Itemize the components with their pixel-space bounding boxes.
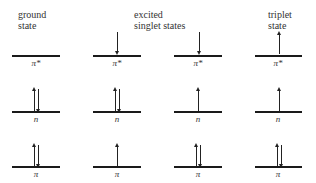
label-pi-star-col1: π* [26,59,46,68]
header-ground: ground state [18,9,46,31]
label-n-col1: n [26,115,46,124]
header-excited-line1: excited [134,9,185,20]
label-pi-star-col3: π* [188,59,208,68]
level-pi-col2 [93,166,141,168]
electron-up-arrow-icon [34,145,35,166]
electron-down-arrow-icon [199,32,200,53]
level-pi-star-col3 [174,55,222,57]
electron-down-arrow-icon [38,89,39,111]
label-pi-col3: π [188,170,208,179]
label-pi-col1: π [26,170,46,179]
electron-down-arrow-icon [200,145,201,166]
electron-up-arrow-icon [34,89,35,111]
level-pi-star-col2 [93,55,141,57]
electron-down-arrow-icon [117,32,118,53]
header-ground-line1: ground [18,9,46,20]
electron-up-arrow-icon [196,145,197,166]
header-triplet: triplet state [268,9,292,31]
header-excited: excited singlet states [134,9,185,31]
orbital-occupancy-diagram: ground state excited singlet states trip… [0,0,316,183]
level-n-col3 [174,111,222,113]
electron-up-arrow-icon [198,89,199,111]
label-n-col2: n [107,115,127,124]
header-excited-line2: singlet states [134,20,185,31]
label-pi-col4: π [268,170,288,179]
level-n-col4 [255,111,302,113]
label-pi-col2: π [107,170,127,179]
label-n-col4: n [268,115,288,124]
electron-up-arrow-icon [117,145,118,166]
electron-up-arrow-icon [115,89,116,111]
electron-up-arrow-icon [279,89,280,111]
level-pi-col3 [174,166,222,168]
level-n-col2 [93,111,141,113]
level-pi-col1 [12,166,60,168]
label-pi-star-col2: π* [107,59,127,68]
level-n-col1 [12,111,60,113]
header-triplet-line2: state [268,20,292,31]
label-n-col3: n [188,115,208,124]
electron-down-arrow-icon [281,145,282,166]
level-pi-star-col4 [255,55,302,57]
level-pi-col4 [255,166,302,168]
electron-down-arrow-icon [119,89,120,111]
electron-up-arrow-icon [279,33,280,54]
header-triplet-line1: triplet [268,9,292,20]
level-pi-star-col1 [12,55,60,57]
electron-up-arrow-icon [277,145,278,166]
electron-down-arrow-icon [38,145,39,166]
header-ground-line2: state [18,20,46,31]
label-pi-star-col4: π* [268,59,288,68]
